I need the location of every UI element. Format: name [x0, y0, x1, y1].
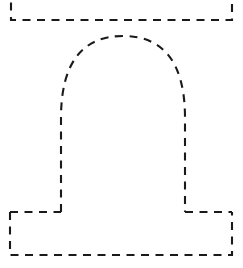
dashed-bell-figure — [0, 0, 243, 268]
canvas-background — [0, 0, 243, 268]
drawing-canvas — [0, 0, 243, 268]
